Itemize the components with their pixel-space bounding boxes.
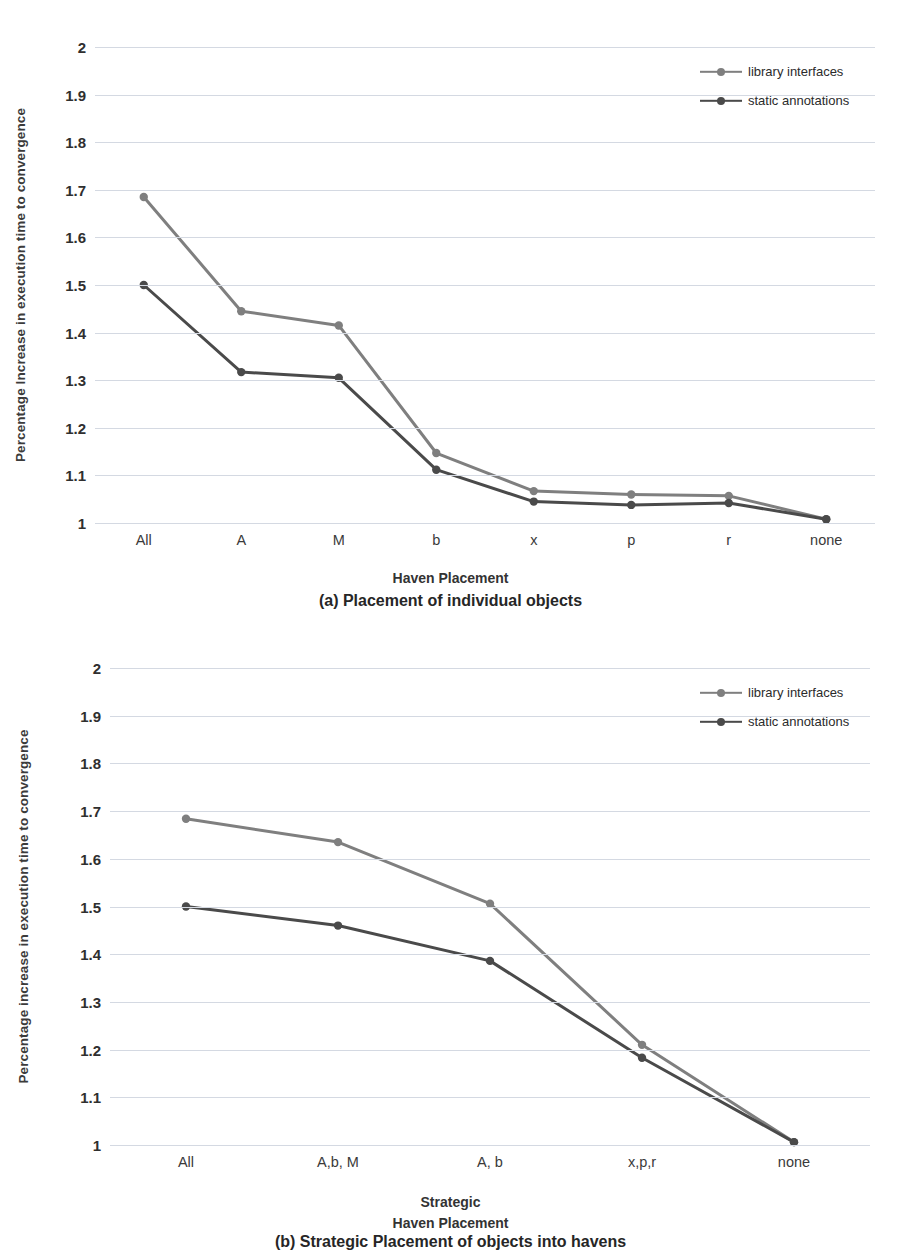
y-axis-tick-label: 1.4 xyxy=(80,946,101,963)
x-axis-tick-label: x,p,r xyxy=(628,1154,656,1170)
x-axis-tick-label: none xyxy=(810,532,842,548)
x-axis-tick-label: A,b, M xyxy=(317,1154,359,1170)
y-axis-tick-label: 1.1 xyxy=(80,1089,101,1106)
y-axis-tick-label: 1.9 xyxy=(80,707,101,724)
caption-a: (a) Placement of individual objects xyxy=(0,592,901,610)
y-axis-tick-label: 1.3 xyxy=(80,993,101,1010)
data-point-marker xyxy=(182,815,190,823)
y-axis-tick-label: 1.6 xyxy=(80,850,101,867)
data-point-marker xyxy=(638,1041,646,1049)
series-line xyxy=(144,197,827,519)
gridline xyxy=(110,1050,870,1051)
x-axis-title-line: Haven Placement xyxy=(0,568,901,589)
gridline xyxy=(110,668,870,669)
legend-item-label: static annotations xyxy=(748,714,849,729)
data-point-marker xyxy=(627,501,635,509)
series-line xyxy=(186,819,794,1142)
x-axis-title-a: Haven Placement xyxy=(0,568,901,589)
gridline xyxy=(110,1002,870,1003)
legend-marker-icon xyxy=(700,717,742,727)
legend-item-label: library interfaces xyxy=(748,64,843,79)
gridline xyxy=(110,954,870,955)
gridline xyxy=(95,47,875,48)
legend-marker-icon xyxy=(700,688,742,698)
legend-item-label: library interfaces xyxy=(748,685,843,700)
x-axis-tick-label: A xyxy=(236,532,246,548)
data-point-marker xyxy=(627,490,635,498)
y-axis-tick-label: 2 xyxy=(78,39,86,56)
x-axis-tick-label: none xyxy=(778,1154,810,1170)
caption-b: (b) Strategic Placement of objects into … xyxy=(0,1233,901,1251)
data-point-marker xyxy=(334,921,342,929)
gridline xyxy=(95,428,875,429)
x-axis-title-line: Haven Placement xyxy=(0,1213,901,1234)
y-axis-title-a: Percentage Increase in execution time to… xyxy=(13,47,28,523)
y-axis-tick-label: 1.1 xyxy=(65,467,86,484)
gridline xyxy=(95,285,875,286)
gridline xyxy=(95,380,875,381)
series-line xyxy=(186,907,794,1143)
gridline xyxy=(95,142,875,143)
x-axis-tick-label: b xyxy=(432,532,440,548)
x-axis-title-b: StrategicHaven Placement xyxy=(0,1192,901,1234)
data-point-marker xyxy=(432,465,440,473)
legend-marker-icon xyxy=(700,67,742,77)
y-axis-tick-label: 1.5 xyxy=(80,898,101,915)
data-point-marker xyxy=(140,193,148,201)
gridline xyxy=(110,859,870,860)
data-point-marker xyxy=(530,487,538,495)
y-axis-tick-label: 1.6 xyxy=(65,229,86,246)
data-point-marker xyxy=(334,838,342,846)
legend-item[interactable]: static annotations xyxy=(700,714,849,729)
plot-area-b: 11.11.21.31.41.51.61.71.81.92AllA,b, MA,… xyxy=(110,668,870,1145)
y-axis-tick-label: 1.7 xyxy=(65,181,86,198)
data-point-marker xyxy=(638,1054,646,1062)
y-axis-tick-label: 1 xyxy=(78,515,86,532)
y-axis-tick-label: 2 xyxy=(93,660,101,677)
gridline xyxy=(110,811,870,812)
gridline xyxy=(110,1097,870,1098)
gridline xyxy=(95,523,875,524)
data-point-marker xyxy=(725,499,733,507)
y-axis-tick-label: 1.7 xyxy=(80,803,101,820)
x-axis-tick-label: M xyxy=(333,532,345,548)
plot-area-a: 11.11.21.31.41.51.61.71.81.92AllAMbxprno… xyxy=(95,47,875,523)
x-axis-tick-label: All xyxy=(178,1154,194,1170)
data-point-marker xyxy=(432,449,440,457)
data-point-marker xyxy=(237,307,245,315)
x-axis-tick-label: All xyxy=(136,532,152,548)
data-point-marker xyxy=(237,368,245,376)
y-axis-tick-label: 1 xyxy=(93,1137,101,1154)
gridline xyxy=(110,1145,870,1146)
figure-page: Percentage Increase in execution time to… xyxy=(0,0,901,1259)
legend-marker-icon xyxy=(700,96,742,106)
y-axis-tick-label: 1.8 xyxy=(65,134,86,151)
x-axis-tick-label: A, b xyxy=(477,1154,503,1170)
legend-item[interactable]: library interfaces xyxy=(700,64,849,79)
y-axis-tick-label: 1.8 xyxy=(80,755,101,772)
y-axis-tick-label: 1.9 xyxy=(65,86,86,103)
data-point-marker xyxy=(486,957,494,965)
figure-a: Percentage Increase in execution time to… xyxy=(0,0,901,620)
legend-item[interactable]: static annotations xyxy=(700,93,849,108)
gridline xyxy=(95,237,875,238)
data-point-marker xyxy=(725,492,733,500)
y-axis-tick-label: 1.2 xyxy=(80,1041,101,1058)
gridline xyxy=(110,763,870,764)
legend-item[interactable]: library interfaces xyxy=(700,685,849,700)
x-axis-tick-label: p xyxy=(627,532,635,548)
x-axis-tick-label: x xyxy=(530,532,537,548)
x-axis-title-line: Strategic xyxy=(0,1192,901,1213)
gridline xyxy=(95,475,875,476)
data-point-marker xyxy=(530,497,538,505)
y-axis-tick-label: 1.3 xyxy=(65,372,86,389)
x-axis-tick-label: r xyxy=(726,532,731,548)
gridline xyxy=(95,190,875,191)
y-axis-title-b: Percentage increase in execution time to… xyxy=(16,668,31,1145)
gridline xyxy=(110,907,870,908)
legend-item-label: static annotations xyxy=(748,93,849,108)
y-axis-tick-label: 1.5 xyxy=(65,277,86,294)
gridline xyxy=(95,333,875,334)
series-line xyxy=(144,285,827,519)
legend-b: library interfacesstatic annotations xyxy=(700,685,849,729)
